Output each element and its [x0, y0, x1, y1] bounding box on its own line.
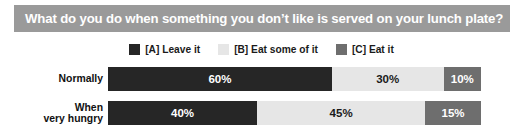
chart-title-banner: What do you do when something you don’t …	[14, 5, 510, 32]
bar-segment-value: 45%	[330, 107, 353, 119]
bar-segment-value: 10%	[451, 73, 474, 85]
legend-swatch-a-icon	[129, 44, 140, 55]
bar-segment-c: 15%	[425, 101, 481, 125]
legend-label-b: [B] Eat some of it	[234, 44, 318, 55]
bar-segment-value: 40%	[171, 107, 194, 119]
legend-item-a: [A] Leave it	[129, 44, 200, 55]
chart-bar-row: Normally 60% 30% 10%	[0, 67, 523, 91]
bar-segment-b: 45%	[257, 101, 425, 125]
bar-segment-value: 30%	[376, 73, 399, 85]
bar-segment-c: 10%	[444, 67, 481, 91]
bar-segment-a: 60%	[108, 67, 332, 91]
bar-segment-value: 60%	[208, 73, 231, 85]
chart-bar-row: When very hungry 40% 45% 15%	[0, 101, 523, 125]
legend-item-b: [B] Eat some of it	[218, 44, 318, 55]
bar-segment-value: 15%	[441, 107, 464, 119]
bar-row-label: When very hungry	[0, 102, 108, 125]
legend-swatch-c-icon	[336, 44, 347, 55]
stacked-bar-track: 60% 30% 10%	[108, 67, 481, 91]
page-title: What do you do when something you don’t …	[25, 11, 503, 26]
stacked-bar-track: 40% 45% 15%	[108, 101, 481, 125]
legend-label-c: [C] Eat it	[352, 44, 394, 55]
bar-row-label: Normally	[0, 73, 108, 85]
legend-swatch-b-icon	[218, 44, 229, 55]
legend-item-c: [C] Eat it	[336, 44, 394, 55]
bar-segment-a: 40%	[108, 101, 257, 125]
legend-label-a: [A] Leave it	[145, 44, 200, 55]
bar-segment-b: 30%	[332, 67, 444, 91]
chart-legend: [A] Leave it [B] Eat some of it [C] Eat …	[0, 41, 523, 58]
